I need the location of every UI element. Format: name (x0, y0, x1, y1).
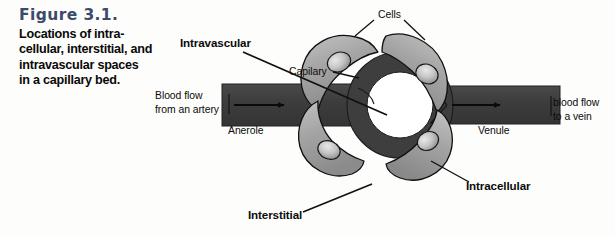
blood-flow-vein-line-2: to a vein (553, 110, 599, 124)
label-intracellular: Intracellular (466, 179, 530, 192)
blood-flow-artery-line-1: Blood flow (155, 89, 219, 103)
label-intravascular: Intravascular (180, 36, 251, 49)
label-blood-flow-to-vein: blood flow to a vein (553, 96, 599, 123)
capillary-bed-diagram (0, 0, 615, 236)
label-capilary: Capilary (289, 65, 327, 78)
leader-cells-left (355, 20, 374, 36)
label-interstitial: Interstitial (248, 208, 302, 221)
label-blood-flow-from-artery: Blood flow from an artery (155, 89, 219, 116)
label-venule: Venule (478, 124, 509, 137)
blood-flow-vein-line-1: blood flow (553, 96, 599, 110)
leader-interstitial (303, 184, 372, 212)
figure-panel: Figure 3.1. Locations of intra- cellular… (0, 0, 615, 236)
blood-flow-artery-line-2: from an artery (155, 103, 219, 117)
label-cells: Cells (378, 8, 401, 21)
label-anerole: Anerole (228, 124, 263, 137)
